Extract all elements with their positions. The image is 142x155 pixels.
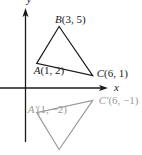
y-axis-label: y <box>26 0 32 5</box>
vertex-label-a-prime: A′(1, −2) <box>27 103 68 116</box>
x-axis-label: x <box>113 81 119 93</box>
vertex-label-b: B(3, 5) <box>55 13 86 26</box>
vertex-label-a: A(1, 2) <box>33 64 65 77</box>
vertex-label-c-prime: C′(6, −1) <box>99 94 139 107</box>
diagram-canvas: x y A(1, 2)B(3, 5)C(6, 1)A′(1, −2)B′(3, … <box>0 0 142 154</box>
vertex-labels: A(1, 2)B(3, 5)C(6, 1)A′(1, −2)B′(3, −5)C… <box>27 13 139 155</box>
coordinate-diagram: x y A(1, 2)B(3, 5)C(6, 1)A′(1, −2)B′(3, … <box>0 0 142 154</box>
vertex-label-c: C(6, 1) <box>97 67 129 80</box>
vertex-label-b-prime: B′(3, −5) <box>52 152 92 155</box>
